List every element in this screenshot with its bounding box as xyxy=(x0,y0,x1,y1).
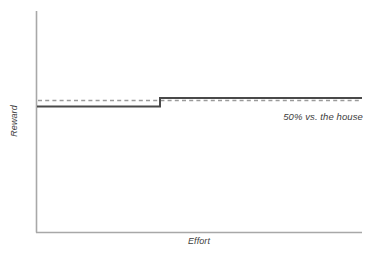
chart-plot-area xyxy=(0,0,371,261)
reward-step-line xyxy=(37,98,362,107)
y-axis-label-text: Reward xyxy=(9,105,19,137)
chart-figure: Reward Effort 50% vs. the house xyxy=(0,0,371,261)
y-axis-label: Reward xyxy=(0,93,28,149)
x-axis-label: Effort xyxy=(36,236,362,246)
reference-line-annotation: 50% vs. the house xyxy=(180,111,363,122)
